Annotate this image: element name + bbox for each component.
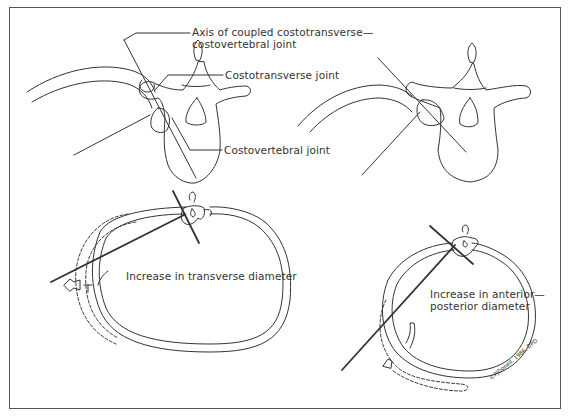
diagram-artwork xyxy=(0,0,571,416)
axis-label-line2: costovertebral joint xyxy=(192,38,296,50)
ap-diameter-label-line2: posterior diameter xyxy=(430,300,530,312)
vertebra-left-illustration xyxy=(27,33,251,183)
axis-label-line1: Axis of coupled costotransverse— xyxy=(192,26,373,38)
ap-diameter-label-line1: Increase in anterior— xyxy=(430,288,545,300)
transverse-diameter-label: Increase in transverse diameter xyxy=(126,270,297,282)
costotransverse-joint-label: Costotransverse joint xyxy=(225,69,339,81)
costovertebral-joint-label: Costovertebral joint xyxy=(224,144,330,156)
vertebra-right-illustration xyxy=(298,43,531,182)
